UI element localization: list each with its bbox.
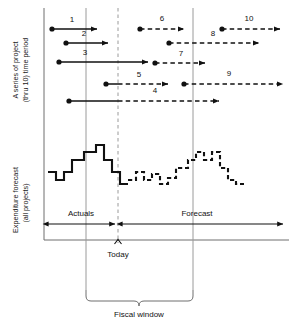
- bottom-axis-title-line1: Expenditure forecast: [11, 167, 20, 233]
- project-start-dot: [137, 26, 142, 31]
- project-start-dot: [219, 26, 224, 31]
- top-axis-title-line2: (thru 10) time period: [21, 38, 30, 103]
- project-bar-2: 2: [63, 29, 108, 46]
- expenditure-step-chart: [48, 145, 244, 184]
- project-number-label-9: 9: [227, 69, 232, 78]
- project-number-label-10: 10: [245, 14, 254, 23]
- today-label: Today: [107, 250, 128, 259]
- project-bar-8: 8: [166, 29, 259, 46]
- fiscal-window-brace: Fiscal window: [86, 290, 193, 319]
- project-start-dot: [66, 98, 71, 103]
- project-start-dot: [63, 40, 68, 45]
- project-bar-6: 6: [137, 14, 184, 32]
- forecast-step-line: [128, 152, 244, 184]
- project-start-dot: [152, 60, 157, 65]
- project-bar-1: 1: [49, 15, 97, 32]
- project-start-dot: [49, 26, 54, 31]
- period-span-arrows: Actuals Forecast: [48, 209, 283, 224]
- project-bar-4: 4: [66, 86, 219, 104]
- project-bar-9: 9: [181, 69, 283, 87]
- diagram-canvas: A series of project (thru 10) time perio…: [0, 0, 289, 321]
- project-number-label-2: 2: [82, 29, 87, 38]
- project-number-label-7: 7: [179, 49, 184, 58]
- bottom-axis-title: Expenditure forecast (all projects): [11, 167, 30, 233]
- project-number-label-5: 5: [137, 70, 142, 79]
- project-start-dot: [56, 59, 61, 64]
- project-bar-3: 3: [56, 48, 148, 65]
- project-number-label-6: 6: [160, 14, 165, 23]
- project-number-label-8: 8: [211, 29, 216, 38]
- actuals-label: Actuals: [68, 209, 94, 218]
- project-number-label-1: 1: [70, 15, 75, 24]
- project-start-dot: [181, 81, 186, 86]
- project-bar-7: 7: [152, 49, 205, 66]
- top-axis-title-line1: A series of project: [11, 41, 20, 98]
- project-bar-5: 5: [103, 70, 168, 87]
- bottom-axis-title-line2: (all projects): [21, 183, 30, 222]
- forecast-label: Forecast: [181, 209, 213, 218]
- project-bars-layer: 12345678910: [49, 14, 283, 104]
- top-axis-title: A series of project (thru 10) time perio…: [11, 38, 30, 103]
- fiscal-window-lines: [86, 8, 193, 290]
- project-number-label-3: 3: [83, 48, 88, 57]
- project-start-dot: [166, 40, 171, 45]
- project-bar-10: 10: [219, 14, 280, 32]
- figure-container: A series of project (thru 10) time perio…: [0, 0, 289, 321]
- fiscal-window-label: Fiscal window: [114, 310, 164, 319]
- actuals-step-line: [48, 145, 128, 184]
- project-number-label-4: 4: [153, 86, 158, 95]
- project-start-dot: [103, 81, 108, 86]
